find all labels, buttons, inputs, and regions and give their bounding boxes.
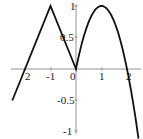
x-tick-label: 1: [99, 70, 105, 82]
y-tick-label: 1: [70, 0, 76, 12]
x-tick-label: -1: [46, 70, 55, 82]
function-plot: 2 -1 0 1 2 1 0.5 -0.5 -1: [0, 0, 143, 139]
x-tick-label: 0: [70, 70, 76, 82]
y-tick-label: -0.5: [57, 94, 75, 106]
y-tick-label: -1: [63, 125, 72, 137]
x-tick-label: 2: [25, 70, 31, 82]
